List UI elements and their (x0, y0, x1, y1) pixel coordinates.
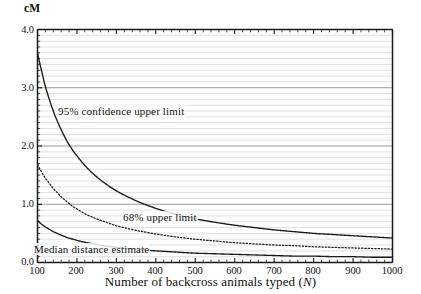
y-axis-unit-label: cM (24, 2, 40, 14)
curve-label-median: Median distance estimate (33, 243, 150, 255)
chart-figure: cM 4.0 3.0 2.0 1.0 0.0 100 200 300 400 5… (0, 0, 421, 294)
x-axis-title-prefix: Number of backcross animals typed ( (105, 274, 303, 289)
curve-label-95-confidence: 95% confidence upper limit (57, 105, 185, 117)
y-tick-label-2: 2.0 (8, 140, 34, 151)
y-tick-label-3: 3.0 (8, 82, 34, 93)
y-tick-label-1: 1.0 (8, 198, 34, 209)
curve-label-68-upper: 68% upper limit (122, 211, 198, 223)
data-curves (38, 53, 393, 257)
x-axis-title-variable: N (303, 274, 312, 289)
x-axis-title: Number of backcross animals typed (N) (0, 274, 421, 290)
x-axis-title-suffix: ) (312, 274, 316, 289)
y-tick-label-4: 4.0 (8, 24, 34, 35)
